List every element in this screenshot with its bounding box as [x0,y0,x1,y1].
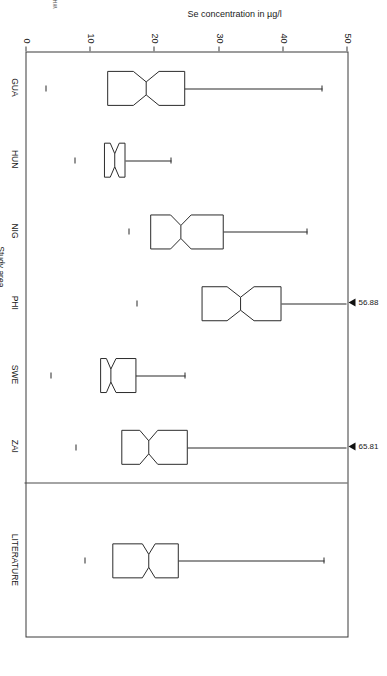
y-tick-label: 20 [149,33,159,43]
y-tick-mark [153,46,154,51]
figure-stage: WHO 96019 Se concentration in µg/l 01020… [0,0,387,676]
y-tick-mark [282,46,283,51]
x-tick-label-swe: SWE [9,364,19,383]
x-tick-label-nig: NIG [9,223,19,238]
y-tick-mark [25,46,26,51]
x-tick-label-literature: LITERATURE [9,533,19,585]
box-shape [24,52,347,638]
outlier-label-phi: 56.88 [358,297,378,306]
y-tick-label: 40 [278,33,288,43]
boxplot-literature [24,52,347,638]
y-tick-label: 50 [342,33,352,43]
x-tick-label-phi: PHI [9,295,19,309]
boxplot-layer [24,52,347,638]
x-tick-label-zai: ZAI [9,439,19,452]
y-tick-label: 30 [214,33,224,43]
y-tick-label: 10 [85,33,95,43]
x-axis-title: Study area [0,246,5,287]
outlier-arrow-zai [348,442,355,450]
watermark-label: WHO 96019 [51,0,57,8]
plot-frame [25,51,348,637]
y-tick-mark [346,46,347,51]
x-tick-label-hun: HUN [9,149,19,167]
y-axis-title: Se concentration in µg/l [187,8,281,18]
y-tick-mark [218,46,219,51]
x-tick-label-gua: GUA [9,78,19,96]
outlier-arrow-phi [348,298,355,306]
y-tick-label: 0 [21,38,31,43]
y-tick-mark [89,46,90,51]
box-notched [112,543,177,577]
outlier-label-zai: 65.81 [358,441,378,450]
